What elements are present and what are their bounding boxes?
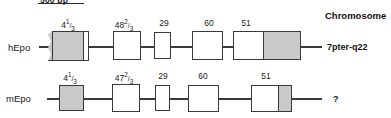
exon-label-mepo-3: 29	[158, 71, 167, 81]
exon-label-hepo-3: 29	[159, 18, 168, 28]
exon-label-mepo-1: 41/3	[63, 71, 77, 85]
exon-label-hepo-2: 482/3	[115, 18, 133, 32]
exon-hepo-5-grey-segment	[263, 32, 300, 59]
exon-hepo-5	[233, 31, 301, 60]
exon-mepo-5-grey-segment	[278, 86, 291, 111]
exon-hepo-3	[154, 32, 171, 59]
exon-label-hepo-5: 51	[241, 18, 250, 28]
exon-mepo-5	[251, 85, 292, 112]
gene-structure-figure: 500 bp Chromosome hEpo 41/3 482/3 29 60 …	[0, 0, 391, 118]
exon-hepo-1	[52, 31, 89, 61]
exon-mepo-3	[155, 85, 170, 111]
exon-hepo-1-pale-segment	[83, 32, 88, 60]
exon-hepo-2	[113, 31, 141, 60]
scale-bar-rule	[38, 3, 84, 4]
row-label-hepo: hEpo	[8, 42, 30, 53]
exon-label-hepo-4: 60	[204, 18, 213, 28]
chromosome-column-header: Chromosome	[325, 10, 386, 21]
exon-label-mepo-2: 472/3	[115, 71, 133, 85]
exon-mepo-4	[188, 85, 219, 112]
chromosome-value-hepo: 7pter-q22	[327, 42, 368, 52]
exon-mepo-2	[112, 84, 140, 112]
exon-label-hepo-1: 41/3	[61, 18, 75, 32]
exon-label-mepo-4: 60	[198, 71, 207, 81]
exon-hepo-4	[192, 31, 223, 60]
row-label-mepo: mEpo	[6, 93, 31, 104]
exon-mepo-1	[59, 85, 84, 111]
chromosome-value-mepo: ?	[333, 94, 339, 104]
exon-label-mepo-5: 51	[261, 71, 270, 81]
